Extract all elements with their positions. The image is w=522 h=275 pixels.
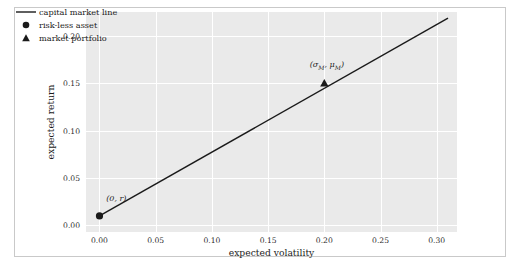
y-axis-label: expected return xyxy=(45,85,56,160)
chart-figure: 0.000.050.100.150.200.250.30 0.000.050.1… xyxy=(0,0,522,275)
market-portfolio-marker xyxy=(320,79,328,87)
capital-market-line-svg xyxy=(86,12,457,232)
legend-label: capital market line xyxy=(39,7,117,17)
x-tick-label: 0.15 xyxy=(260,236,277,245)
x-tick-label: 0.05 xyxy=(147,236,164,245)
x-tick-label: 0.20 xyxy=(316,236,333,245)
legend-label: risk-less asset xyxy=(39,20,97,30)
x-axis-label: expected volatility xyxy=(86,247,457,258)
legend-item-line[interactable]: capital market line xyxy=(13,6,117,17)
x-tick-label: 0.10 xyxy=(203,236,220,245)
legend-circle-icon xyxy=(13,20,39,30)
y-tick-label: 0.15 xyxy=(63,79,80,88)
legend-item-circle[interactable]: risk-less asset xyxy=(13,19,117,30)
annotation-market-portfolio-point: (σM, μM) xyxy=(310,60,344,71)
plot-area xyxy=(86,12,457,232)
annotation-market-close: ) xyxy=(341,60,344,69)
x-tick-label: 0.30 xyxy=(428,236,445,245)
risk-less-asset-marker xyxy=(96,212,103,219)
legend-line-icon xyxy=(13,7,39,17)
annotation-riskfree-close: ) xyxy=(123,194,126,203)
annotation-risk-free-point: (0, r) xyxy=(106,194,126,203)
y-tick-label: 0.05 xyxy=(63,173,80,182)
annotation-riskfree-open: (0, xyxy=(106,194,119,203)
legend-label: market portfolio xyxy=(39,33,107,43)
chart-legend: capital market linerisk-less assetmarket… xyxy=(13,6,117,43)
legend-item-triangle[interactable]: market portfolio xyxy=(13,32,117,43)
y-tick-label: 0.00 xyxy=(63,221,80,230)
x-tick-label: 0.25 xyxy=(372,236,389,245)
x-tick-label: 0.00 xyxy=(91,236,108,245)
capital-market-line xyxy=(99,18,448,216)
y-tick-label: 0.10 xyxy=(63,126,80,135)
legend-triangle-icon xyxy=(13,33,39,43)
